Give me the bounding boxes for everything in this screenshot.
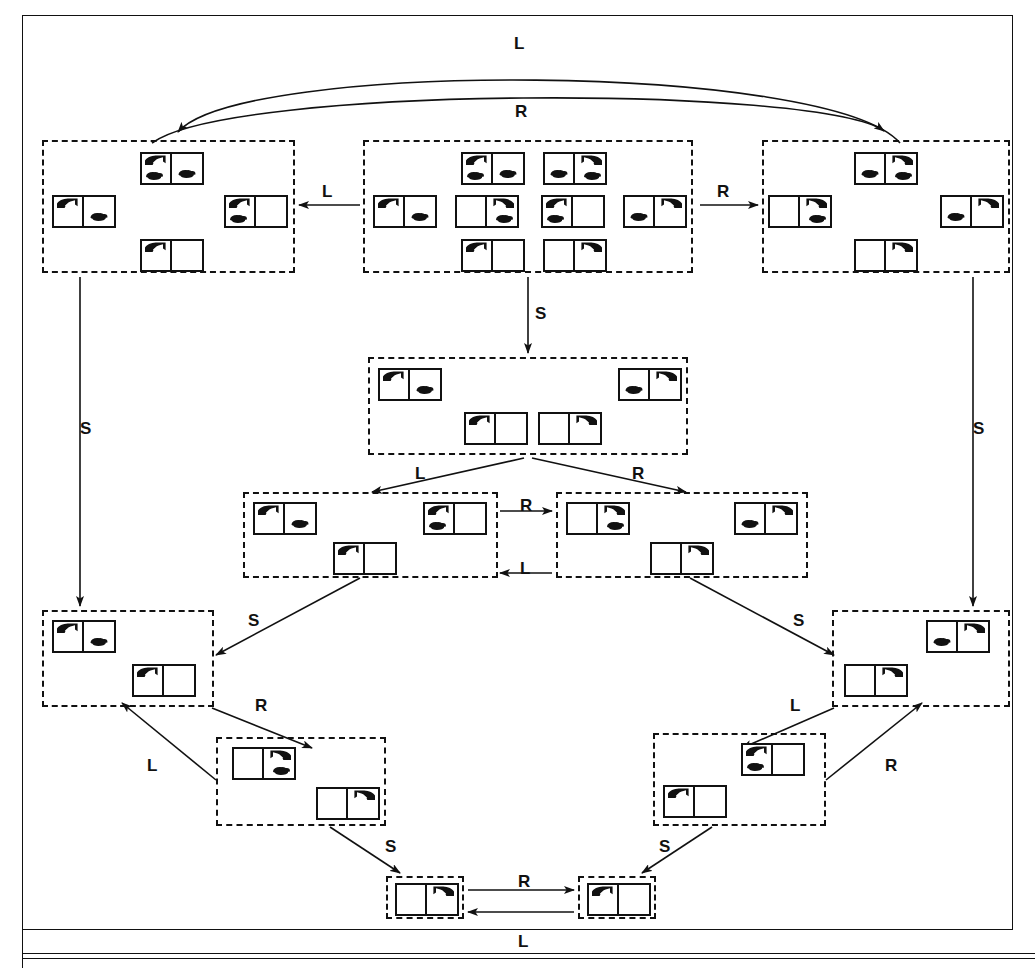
room-left [457, 197, 487, 226]
belief-center-after-suck [368, 357, 688, 455]
room-right [573, 197, 603, 226]
room-right [348, 789, 378, 818]
room-left [589, 885, 619, 914]
room-right [164, 666, 194, 695]
edge-label-suck-split-L: L [415, 465, 425, 482]
room-left [568, 504, 598, 533]
state-vac-right-dirt-left [618, 368, 682, 401]
edge-label-lowleft-L: L [147, 757, 157, 774]
footer-left-rule [22, 930, 23, 968]
dirt-blob-icon [498, 215, 511, 223]
state-vac-left-dirt-right [52, 620, 116, 653]
state-vac-right-dirt-left [734, 502, 798, 535]
room-right [570, 414, 600, 443]
edge-label-midright-down-S: S [793, 612, 804, 629]
room-right [695, 787, 725, 816]
room-left [425, 504, 455, 533]
room-right [655, 197, 685, 226]
room-left [466, 414, 496, 443]
belief-lower-right-inner [653, 733, 826, 826]
edge-label-center-suck-S: S [535, 305, 546, 322]
room-left [665, 787, 695, 816]
room-right [405, 197, 435, 226]
vacuum-cleaner-icon [579, 155, 603, 168]
dirt-blob-icon [93, 638, 106, 646]
room-left [736, 504, 766, 533]
vacuum-cleaner-icon [144, 242, 168, 255]
state-vac-left-clean [461, 239, 525, 272]
vacuum-cleaner-icon [56, 623, 80, 636]
vacuum-cleaner-icon [465, 242, 489, 255]
state-vac-left-clean [140, 239, 204, 272]
vacuum-cleaner-icon [431, 886, 455, 899]
state-vac-right-dirt-left [926, 620, 990, 653]
state-vac-right-clean [316, 787, 380, 820]
room-right [84, 197, 114, 226]
vacuum-cleaner-icon [804, 198, 828, 211]
edge-label-top-arc-R: R [515, 103, 527, 120]
room-left [543, 197, 573, 226]
state-vac-right-dirt-both [854, 152, 918, 185]
dirt-blob-icon [93, 213, 106, 221]
room-right [800, 197, 830, 226]
room-left [54, 197, 84, 226]
vacuum-cleaner-icon [465, 155, 489, 168]
room-left [335, 544, 365, 573]
vacuum-cleaner-icon [427, 505, 451, 518]
dirt-blob-icon [864, 170, 877, 178]
room-right [886, 241, 916, 270]
state-vac-right-dirt-left [623, 195, 687, 228]
state-vac-left-dirt-left [224, 195, 288, 228]
room-right [619, 885, 649, 914]
state-vac-left-dirt-right [52, 195, 116, 228]
state-vac-right-dirt-both [543, 152, 607, 185]
room-left [255, 504, 285, 533]
edge-label-left-down-S: S [80, 420, 91, 437]
room-left [540, 414, 570, 443]
room-right [886, 154, 916, 183]
dirt-blob-icon [609, 522, 622, 530]
room-right [493, 154, 523, 183]
room-right [427, 885, 457, 914]
vacuum-cleaner-icon [686, 545, 710, 558]
room-right [84, 622, 114, 651]
room-right [496, 414, 526, 443]
vacuum-cleaner-icon [545, 198, 569, 211]
vacuum-cleaner-icon [352, 790, 376, 803]
dirt-blob-icon [414, 213, 427, 221]
state-vac-right-dirt-right [768, 195, 832, 228]
room-right [285, 504, 315, 533]
edge-label-bottom-L: L [518, 933, 528, 950]
vacuum-cleaner-icon [745, 746, 769, 759]
dirt-blob-icon [950, 213, 963, 221]
vacuum-cleaner-icon [56, 198, 80, 211]
edge-label-bottomleft-S: S [385, 838, 396, 855]
room-right [493, 241, 523, 270]
vacuum-cleaner-icon [591, 886, 615, 899]
state-vac-left-dirt-left [423, 502, 487, 535]
belief-lower-left-inner [216, 737, 386, 826]
room-left [942, 197, 972, 226]
belief-lower-left-outer [42, 610, 214, 707]
room-left [134, 666, 164, 695]
dirt-blob-icon [811, 215, 824, 223]
room-right [172, 241, 202, 270]
dirt-blob-icon [749, 763, 762, 771]
room-left [234, 749, 264, 778]
state-vac-left-clean [587, 883, 651, 916]
state-vac-right-clean [650, 542, 714, 575]
room-right [876, 666, 906, 695]
state-vac-right-clean [543, 239, 607, 272]
dirt-blob-icon [469, 172, 482, 180]
state-vac-left-dirt-right [253, 502, 317, 535]
room-left [142, 154, 172, 183]
vacuum-cleaner-icon [579, 242, 603, 255]
room-left [397, 885, 427, 914]
edge-label-right-down-S: S [973, 420, 984, 437]
room-right [487, 197, 517, 226]
state-vac-left-dirt-left [741, 743, 805, 776]
belief-bottom-left-goal [386, 876, 464, 919]
room-right [256, 197, 286, 226]
edge-label-mid-L: L [520, 560, 530, 577]
state-vac-right-dirt-right [455, 195, 519, 228]
